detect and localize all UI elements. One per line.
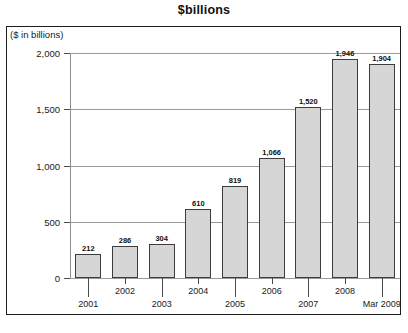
bar [332, 59, 358, 278]
bar-value-label: 1,520 [299, 97, 318, 106]
bar [222, 186, 248, 278]
bar-value-label: 304 [155, 234, 168, 243]
y-axis-tick-label: 1,500 [7, 104, 60, 115]
x-axis-tick [125, 278, 126, 284]
x-axis-label: 2008 [335, 286, 355, 296]
bar [112, 246, 138, 278]
y-axis-tick-label: 1,000 [7, 160, 60, 171]
y-axis-tick [64, 166, 70, 167]
x-axis-label: 2002 [115, 286, 135, 296]
bar-value-label: 1,904 [372, 54, 391, 63]
bar-value-label: 819 [229, 176, 242, 185]
x-axis-label: 2007 [298, 299, 318, 309]
bar-value-label: 286 [119, 236, 132, 245]
bar-value-label: 610 [192, 199, 205, 208]
chart-title: $billions [0, 3, 408, 17]
chart-plot-frame: ($ in billions) 05001,0001,5002,000 2122… [6, 26, 401, 315]
x-axis-label: 2005 [225, 299, 245, 309]
bar [295, 107, 321, 278]
x-axis-tick [382, 278, 383, 297]
y-axis-tick [64, 53, 70, 54]
x-axis-label: Mar 2009 [363, 299, 401, 309]
x-axis-tick [88, 278, 89, 297]
bar [149, 244, 175, 278]
x-axis-tick [345, 278, 346, 284]
y-axis-tick [64, 222, 70, 223]
x-axis-tick [235, 278, 236, 297]
y-axis-tick-label: 500 [7, 216, 60, 227]
x-axis-tick [308, 278, 309, 297]
bar-value-label: 212 [82, 244, 95, 253]
x-axis-label: 2006 [262, 286, 282, 296]
x-axis-tick [162, 278, 163, 297]
x-axis-tick [272, 278, 273, 284]
bar [369, 64, 395, 278]
x-axis-label: 2001 [78, 299, 98, 309]
bar-value-label: 1,066 [262, 148, 281, 157]
x-axis-label: 2004 [188, 286, 208, 296]
bar-value-label: 1,946 [336, 49, 355, 58]
x-axis-tick [198, 278, 199, 284]
bar [185, 209, 211, 278]
y-axis-tick [64, 109, 70, 110]
x-axis-label: 2003 [152, 299, 172, 309]
y-axis-unit-label: ($ in billions) [10, 29, 63, 40]
y-axis-tick-label: 0 [7, 273, 60, 284]
bar [75, 254, 101, 278]
y-axis-tick [64, 278, 70, 279]
y-axis-tick-label: 2,000 [7, 48, 60, 59]
bar [259, 158, 285, 278]
